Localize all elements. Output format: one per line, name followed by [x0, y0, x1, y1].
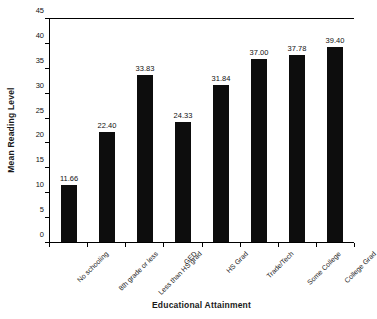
x-tick-mark [87, 243, 125, 247]
y-axis-title-text: Mean Reading Level [6, 87, 16, 172]
bar-slot: 11.66 [50, 19, 88, 243]
y-tick-mark [45, 93, 50, 94]
y-tick-label: 20 [22, 130, 44, 139]
y-tick-label: 10 [22, 180, 44, 189]
x-category: Trade/Tech [240, 248, 278, 300]
y-tick-mark [45, 167, 50, 168]
y-tick-label: 15 [22, 155, 44, 164]
y-tick-mark [45, 217, 50, 218]
bar-slot: 39.40 [316, 19, 354, 243]
bar: 11.66 [61, 185, 77, 243]
x-axis-tick-labels: No schooling8th grade or lessLess than H… [49, 248, 354, 300]
x-category: 8th grade or less [87, 248, 125, 300]
bar: 37.00 [251, 59, 267, 243]
bar: 22.40 [99, 132, 115, 244]
y-tick-mark [45, 118, 50, 119]
x-tick-mark [49, 243, 87, 247]
x-tick-mark [202, 243, 240, 247]
bar: 37.78 [289, 55, 305, 243]
y-axis-title: Mean Reading Level [0, 0, 22, 260]
bar-value-label: 33.83 [136, 64, 155, 73]
y-tick-label: 40 [22, 30, 44, 39]
x-category-label: GED [183, 250, 199, 266]
bar: 31.84 [213, 85, 229, 243]
bar-value-label: 37.78 [288, 44, 307, 53]
bar-slot: 31.84 [202, 19, 240, 243]
x-category: GED [163, 248, 201, 300]
bar-value-label: 22.40 [98, 121, 117, 130]
bar-slot: 22.40 [88, 19, 126, 243]
x-category: No schooling [49, 248, 87, 300]
y-tick-label: 35 [22, 55, 44, 64]
x-category: Less than HS grad [125, 248, 163, 300]
y-tick-mark [45, 18, 50, 19]
bar: 39.40 [327, 47, 343, 243]
x-tick-mark [163, 243, 201, 247]
x-tick-mark [240, 243, 278, 247]
x-tick-mark [278, 243, 316, 247]
x-category: HS Grad [202, 248, 240, 300]
bar-value-label: 24.33 [174, 111, 193, 120]
y-tick-mark [45, 142, 50, 143]
bar-slot: 24.33 [164, 19, 202, 243]
y-tick-mark [45, 192, 50, 193]
bar-value-label: 37.00 [250, 48, 269, 57]
bar: 33.83 [137, 75, 153, 243]
bar-value-label: 31.84 [212, 74, 231, 83]
x-tick-mark [125, 243, 163, 247]
y-tick-mark [45, 43, 50, 44]
plot-area: 11.6622.4033.8324.3331.8437.0037.7839.40… [49, 18, 354, 243]
x-category: Some College [278, 248, 316, 300]
y-tick-label: 25 [22, 105, 44, 114]
y-tick-label: 30 [22, 80, 44, 89]
x-axis-ticks [49, 243, 354, 247]
y-tick-mark [45, 68, 50, 69]
bar-value-label: 39.40 [326, 36, 345, 45]
bar: 24.33 [175, 122, 191, 243]
y-tick-label: 5 [22, 205, 44, 214]
bar-slot: 37.00 [240, 19, 278, 243]
y-tick-label: 0 [22, 230, 44, 239]
x-category-label: College Grad [343, 250, 377, 284]
bar-slot: 37.78 [278, 19, 316, 243]
bar-value-label: 11.66 [60, 174, 78, 183]
bar-slot: 33.83 [126, 19, 164, 243]
x-tick-mark [316, 243, 354, 247]
bar-series: 11.6622.4033.8324.3331.8437.0037.7839.40 [50, 19, 354, 243]
x-axis-title: Educational Attainment [49, 300, 354, 310]
x-category: College Grad [316, 248, 354, 300]
y-tick-label: 45 [22, 6, 44, 15]
